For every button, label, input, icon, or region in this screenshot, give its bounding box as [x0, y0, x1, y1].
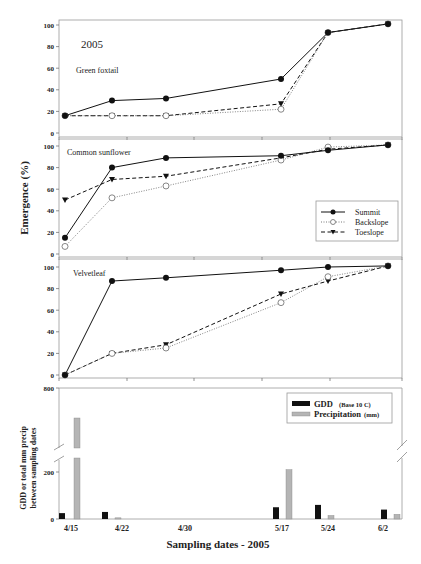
legend-precipitation-unit: (mm): [364, 411, 379, 419]
bar-gdd: [315, 505, 321, 519]
y-tick-label: 0: [51, 130, 55, 138]
marker-summit: [109, 98, 115, 104]
legend-precipitation: Precipitation: [314, 409, 361, 419]
bar-precipitation: [74, 458, 80, 519]
legend-summit: Summit: [355, 208, 381, 217]
bar-legend: GDD (Base 10 C) Precipitation (mm): [287, 393, 392, 423]
marker-backslope: [163, 113, 169, 119]
marker-summit: [325, 30, 331, 36]
figure: 0204060801000204060801000204060801000200…: [0, 0, 421, 564]
x-tick-label: 5/17: [275, 524, 289, 533]
marker-summit: [385, 263, 391, 269]
y-tick-label: 0: [51, 251, 55, 259]
y-tick-label: 100: [44, 143, 55, 151]
x-tick-label: 4/15: [64, 524, 78, 533]
bar-precipitation-upper: [74, 418, 80, 448]
bar-precipitation: [286, 470, 292, 519]
y-tick-label: 80: [47, 164, 55, 172]
bar-precipitation: [328, 515, 334, 519]
panel-title-green-foxtail: Green foxtail: [76, 66, 119, 75]
y-axis-title-bar-line2: between sampling dates: [29, 428, 38, 509]
x-axis-title: Sampling dates - 2005: [167, 538, 270, 550]
bar-gdd: [381, 510, 387, 519]
marker-backslope: [325, 274, 331, 280]
marker-summit: [109, 278, 115, 284]
marker-backslope: [278, 106, 284, 112]
marker-backslope: [109, 350, 115, 356]
marker-toeslope: [163, 174, 169, 180]
y-tick-label: 60: [47, 307, 55, 315]
marker-summit: [278, 153, 284, 159]
x-tick-label: 6/2: [378, 524, 388, 533]
marker-summit: [62, 235, 68, 241]
panel-title-velvetleaf: Velvetleaf: [73, 269, 106, 278]
y-tick-label: 20: [47, 350, 55, 358]
marker-summit: [278, 76, 284, 82]
marker-backslope: [109, 195, 115, 201]
legend-gdd-base: (Base 10 C): [339, 401, 371, 409]
bar-gdd: [59, 513, 65, 519]
y-tick-label: 40: [47, 86, 55, 94]
legend-gdd: GDD: [314, 399, 333, 409]
x-tick-label: 4/30: [178, 524, 192, 533]
y-tick-label: 40: [47, 328, 55, 336]
year-annotation: 2005: [81, 38, 104, 50]
bar-y-tick-label: 800: [44, 385, 55, 393]
legend-toeslope: Toeslope: [355, 228, 384, 237]
line-legend: Summit Backslope Toeslope: [316, 201, 398, 241]
marker-backslope: [109, 113, 115, 119]
y-tick-label: 0: [51, 372, 55, 380]
y-tick-label: 40: [47, 207, 55, 215]
legend-backslope: Backslope: [355, 218, 389, 227]
line-panel-2: 020406080100: [44, 139, 403, 260]
marker-backslope: [278, 300, 284, 306]
y-axis-title-bar-line1: GDD or total mm precip: [19, 426, 28, 510]
bar-y-tick-label: 200: [44, 469, 55, 477]
x-tick-label: 4/22: [115, 524, 129, 533]
bar-gdd: [273, 507, 279, 519]
marker-backslope: [163, 183, 169, 189]
marker-summit: [385, 142, 391, 148]
panel-title-common-sunflower: Common sunflower: [67, 148, 131, 157]
y-tick-label: 20: [47, 229, 55, 237]
marker-summit: [325, 264, 331, 270]
x-tick-label: 5/24: [321, 524, 335, 533]
marker-summit: [62, 113, 68, 119]
marker-summit: [325, 147, 331, 153]
marker-summit: [385, 21, 391, 27]
marker-toeslope: [278, 292, 284, 298]
y-tick-label: 80: [47, 285, 55, 293]
marker-summit: [163, 155, 169, 161]
bar-y-tick-label: 0: [51, 516, 55, 524]
y-tick-label: 60: [47, 186, 55, 194]
marker-summit: [278, 267, 284, 273]
y-tick-label: 60: [47, 65, 55, 73]
marker-summit: [109, 165, 115, 171]
bar-gdd: [102, 512, 108, 519]
marker-summit: [163, 275, 169, 281]
y-tick-label: 20: [47, 108, 55, 116]
y-tick-label: 100: [44, 264, 55, 272]
y-tick-label: 80: [47, 43, 55, 51]
marker-backslope: [62, 243, 68, 249]
marker-backslope: [163, 345, 169, 351]
bar-precipitation: [115, 518, 121, 519]
bar-precipitation: [394, 514, 400, 519]
y-axis-title-emergence: Emergence (%): [18, 161, 31, 235]
marker-summit: [163, 95, 169, 101]
y-tick-label: 100: [44, 22, 55, 30]
marker-toeslope: [62, 198, 68, 204]
marker-summit: [62, 372, 68, 378]
